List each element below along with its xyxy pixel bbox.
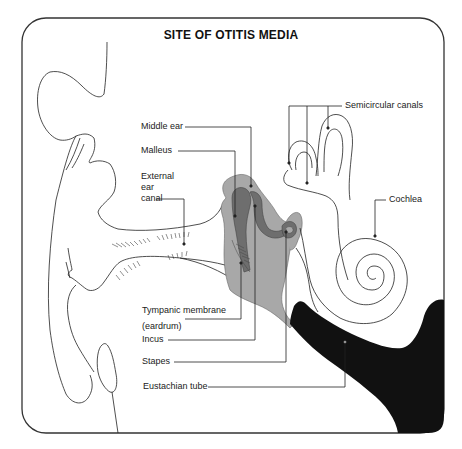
- diagram-title: SITE OF OTITIS MEDIA: [0, 28, 462, 42]
- label-middle-ear: Middle ear: [141, 121, 183, 132]
- ear-anatomy-illustration: [0, 0, 462, 449]
- label-stapes: Stapes: [142, 356, 170, 367]
- label-eustachian-tube: Eustachian tube: [143, 381, 208, 392]
- inner-ear-outline: [284, 114, 408, 323]
- label-incus: Incus: [142, 334, 164, 345]
- eustachian-tube: [290, 300, 444, 433]
- label-external-ear-canal: External ear canal: [141, 171, 174, 204]
- diagram-canvas: SITE OF OTITIS MEDIA Middle ear Malleus …: [0, 0, 462, 449]
- label-semicircular-canals: Semicircular canals: [345, 100, 423, 111]
- label-malleus: Malleus: [141, 145, 172, 156]
- label-cochlea: Cochlea: [389, 194, 422, 205]
- label-tympanic-membrane: Tympanic membrane (eardrum): [142, 302, 226, 334]
